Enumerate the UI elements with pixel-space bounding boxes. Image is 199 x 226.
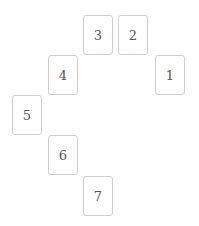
card-label: 3: [94, 28, 102, 43]
card-label: 6: [59, 148, 67, 163]
card-label: 7: [94, 189, 102, 204]
card-6[interactable]: 6: [48, 135, 78, 175]
card-label: 5: [23, 108, 31, 123]
card-2[interactable]: 2: [118, 15, 148, 55]
card-label: 4: [59, 68, 67, 83]
card-1[interactable]: 1: [155, 55, 185, 95]
card-5[interactable]: 5: [12, 95, 42, 135]
card-7[interactable]: 7: [83, 176, 113, 216]
card-label: 1: [166, 68, 174, 83]
card-3[interactable]: 3: [83, 15, 113, 55]
card-4[interactable]: 4: [48, 55, 78, 95]
card-label: 2: [129, 28, 137, 43]
